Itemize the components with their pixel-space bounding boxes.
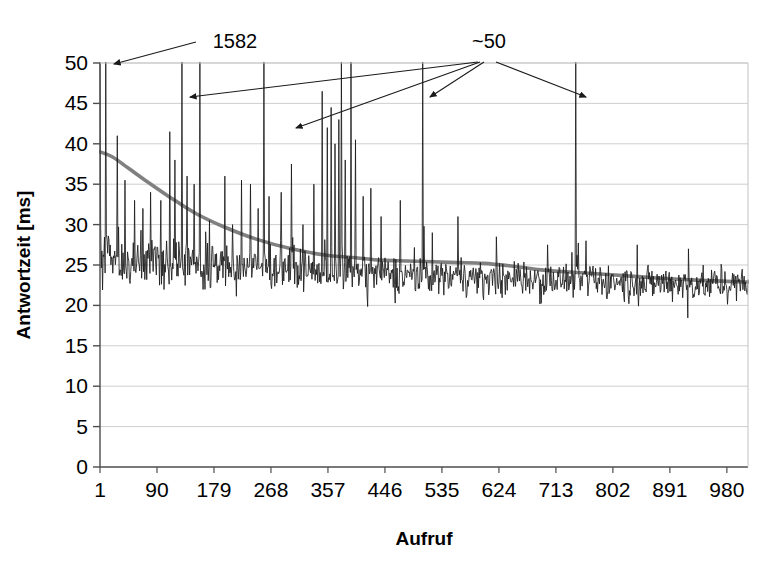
x-axis-title: Aufruf [396, 528, 454, 549]
x-tick-label: 357 [310, 478, 345, 501]
y-tick-label: 0 [76, 455, 88, 478]
y-tick-label: 50 [65, 51, 88, 74]
x-tick-label: 713 [538, 478, 573, 501]
x-tick-label: 446 [367, 478, 402, 501]
annotation-label: ~50 [472, 30, 506, 52]
y-axis-title: Antwortzeit [ms] [13, 191, 34, 340]
y-tick-label: 15 [65, 334, 88, 357]
x-tick-label: 535 [424, 478, 459, 501]
x-tick-label: 624 [481, 478, 516, 501]
y-tick-label: 30 [65, 213, 88, 236]
x-tick-label: 802 [595, 478, 630, 501]
y-tick-label: 20 [65, 293, 88, 316]
x-tick-label: 90 [145, 478, 168, 501]
y-tick-label: 45 [65, 91, 88, 114]
y-tick-label: 25 [65, 253, 88, 276]
chart-figure: 05101520253035404550 1901792683574465356… [0, 0, 782, 574]
response-time-chart: 05101520253035404550 1901792683574465356… [0, 0, 782, 574]
annotation-label: 1582 [213, 30, 258, 52]
x-tick-label: 1 [94, 478, 106, 501]
x-tick-label: 179 [196, 478, 231, 501]
x-tick-label: 891 [652, 478, 687, 501]
y-tick-label: 10 [65, 374, 88, 397]
y-tick-label: 35 [65, 172, 88, 195]
x-tick-label: 268 [253, 478, 288, 501]
x-tick-label: 980 [709, 478, 744, 501]
y-tick-label: 5 [76, 415, 88, 438]
y-tick-label: 40 [65, 132, 88, 155]
